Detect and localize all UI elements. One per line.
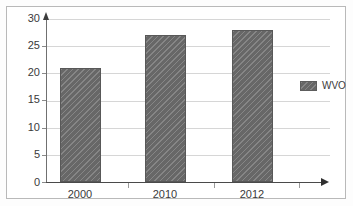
x-category-label-2000: 2000: [50, 188, 110, 200]
y-axis-arrow-icon: [43, 12, 49, 20]
y-tick-label-20: 20: [14, 67, 40, 78]
gridline-30: [46, 19, 330, 20]
x-axis-arrow-icon: [321, 178, 329, 186]
y-axis-tick-labels: 30 25 20 15 10 5 0: [8, 0, 40, 206]
y-tick-label-25: 25: [14, 40, 40, 51]
y-tick-label-10: 10: [14, 122, 40, 133]
legend-swatch-icon: [300, 81, 317, 91]
y-tick-label-0: 0: [14, 177, 40, 188]
bar-2000[interactable]: [60, 68, 101, 182]
bar-chart-figure: 30 25 20 15 10 5 0 2000 2010 2012 WVO: [0, 0, 353, 206]
plot-area: [46, 19, 330, 182]
x-tick-mark-1: [128, 183, 129, 188]
legend-label-wvo: WVO: [322, 80, 346, 91]
x-axis-line: [46, 182, 323, 183]
x-category-label-2012: 2012: [222, 188, 282, 200]
x-tick-mark-2: [214, 183, 215, 188]
y-tick-label-5: 5: [14, 149, 40, 160]
gridline-25: [46, 46, 330, 47]
x-tick-mark-3: [299, 183, 300, 188]
bar-2010[interactable]: [145, 35, 186, 182]
y-tick-label-15: 15: [14, 94, 40, 105]
x-category-label-2010: 2010: [135, 188, 195, 200]
y-axis-line: [46, 19, 47, 183]
bar-2012[interactable]: [232, 30, 273, 182]
y-tick-label-30: 30: [14, 13, 40, 24]
chart-legend: WVO: [300, 80, 346, 91]
